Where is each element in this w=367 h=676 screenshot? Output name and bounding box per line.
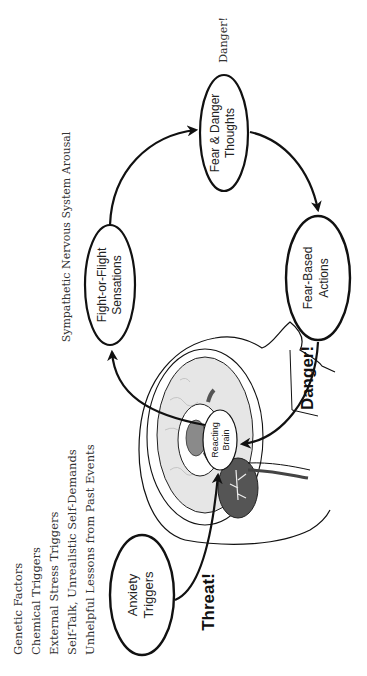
- node-reacting-brain: Reacting Brain: [203, 410, 237, 470]
- label-sympathetic-arousal: Sympathetic Nervous System Arousal: [60, 131, 73, 342]
- node-fear-thoughts-line2: Thoughts: [223, 108, 237, 158]
- node-fight-or-flight-line2: Sensations: [110, 255, 124, 314]
- trigger-item-past-events: Unhelpful Lessons from Past Events: [83, 444, 97, 655]
- arrow-to-fear-actions: [250, 132, 318, 210]
- trigger-item-self-talk: Self-Talk, Unrealistic Self-Demands: [65, 449, 79, 655]
- node-anxiety-triggers: Anxiety Triggers: [110, 535, 174, 655]
- arrow-to-fear-thoughts: [110, 130, 196, 225]
- trigger-item-genetic: Genetic Factors: [11, 563, 25, 655]
- node-reacting-brain-line2: Brain: [221, 429, 231, 450]
- node-fear-actions-line1: Fear-Based: [301, 247, 315, 310]
- node-fight-or-flight-line1: Fight-or-Flight: [95, 247, 109, 322]
- trigger-item-chemical: Chemical Triggers: [29, 547, 43, 655]
- node-fear-danger-thoughts: Fear & Danger Thoughts: [200, 75, 248, 191]
- node-fight-or-flight: Fight-or-Flight Sensations: [85, 225, 135, 345]
- node-fear-actions-line2: Actions: [317, 258, 331, 297]
- label-danger-bold: Danger!: [298, 346, 317, 410]
- node-anxiety-triggers-line1: Anxiety: [125, 573, 140, 616]
- node-anxiety-triggers-line2: Triggers: [141, 571, 156, 619]
- trigger-list: Genetic Factors Chemical Triggers Extern…: [11, 444, 97, 655]
- node-fear-based-actions: Fear-Based Actions: [286, 216, 350, 340]
- node-fear-thoughts-line1: Fear & Danger: [208, 94, 222, 173]
- anxiety-cycle-diagram: Genetic Factors Chemical Triggers Extern…: [0, 0, 367, 676]
- label-danger-small: Danger!: [217, 17, 230, 63]
- node-reacting-brain-line1: Reacting: [210, 422, 220, 458]
- trigger-item-external-stress: External Stress Triggers: [47, 511, 61, 655]
- label-threat: Threat!: [199, 573, 218, 631]
